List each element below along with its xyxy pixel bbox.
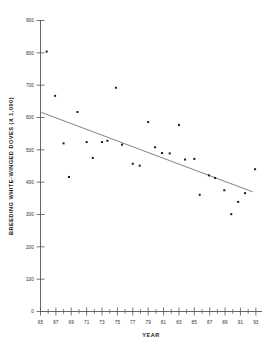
data-point bbox=[208, 174, 210, 176]
x-tick-label: 71 bbox=[84, 320, 90, 325]
x-tick-label: 91 bbox=[238, 320, 244, 325]
data-point bbox=[121, 144, 123, 146]
x-tick-label: 79 bbox=[145, 320, 151, 325]
data-point bbox=[54, 95, 56, 97]
data-point bbox=[193, 158, 195, 160]
x-tick-label: 87 bbox=[207, 320, 213, 325]
y-axis-title: BREEDING WHITE-WINGED DOVES (X 1,000) bbox=[8, 97, 14, 235]
x-tick-label: 65 bbox=[38, 320, 44, 325]
x-axis-title: YEAR bbox=[142, 332, 160, 338]
axes-group bbox=[41, 20, 263, 312]
data-points-group bbox=[46, 51, 256, 216]
trend-line-group bbox=[41, 112, 253, 192]
y-tick-label: 100 bbox=[26, 277, 34, 282]
trend-line bbox=[41, 112, 253, 192]
data-point bbox=[154, 146, 156, 148]
data-point bbox=[244, 192, 246, 194]
chart-figure: 0100200300400500600700800900 65676971737… bbox=[0, 0, 278, 358]
data-point bbox=[199, 194, 201, 196]
y-tick-label: 400 bbox=[26, 180, 34, 185]
data-point bbox=[147, 121, 149, 123]
data-point bbox=[115, 87, 117, 89]
data-point bbox=[178, 124, 180, 126]
data-point bbox=[132, 163, 134, 165]
data-point bbox=[184, 159, 186, 161]
x-tick-label: 69 bbox=[69, 320, 75, 325]
y-tick-label: 500 bbox=[26, 148, 34, 153]
data-point bbox=[76, 111, 78, 113]
x-tick-label: 75 bbox=[115, 320, 121, 325]
data-point bbox=[86, 141, 88, 143]
x-tick-label: 67 bbox=[53, 320, 59, 325]
data-point bbox=[169, 152, 171, 154]
data-point bbox=[106, 140, 108, 142]
y-tick-label: 900 bbox=[26, 18, 34, 23]
y-tick-label: 300 bbox=[26, 212, 34, 217]
data-point bbox=[237, 201, 239, 203]
x-tick-label: 77 bbox=[130, 320, 136, 325]
x-axis-tick-labels: 656769717375777981838587899193 bbox=[38, 320, 259, 325]
data-point bbox=[214, 177, 216, 179]
x-tick-label: 85 bbox=[192, 320, 198, 325]
y-tick-label: 200 bbox=[26, 245, 34, 250]
x-tick-label: 81 bbox=[161, 320, 167, 325]
data-point bbox=[161, 152, 163, 154]
y-tick-label: 800 bbox=[26, 51, 34, 56]
data-point bbox=[92, 157, 94, 159]
data-point bbox=[230, 213, 232, 215]
x-tick-label: 89 bbox=[222, 320, 228, 325]
data-point bbox=[139, 165, 141, 167]
y-tick-label: 0 bbox=[31, 309, 34, 314]
x-tick-label: 73 bbox=[99, 320, 105, 325]
data-point bbox=[254, 168, 256, 170]
scatter-plot: 0100200300400500600700800900 65676971737… bbox=[0, 0, 278, 358]
y-axis-tick-labels: 0100200300400500600700800900 bbox=[26, 18, 34, 314]
y-tick-label: 600 bbox=[26, 115, 34, 120]
data-point bbox=[101, 141, 103, 143]
y-tick-label: 700 bbox=[26, 83, 34, 88]
x-tick-label: 83 bbox=[176, 320, 182, 325]
data-point bbox=[68, 176, 70, 178]
x-tick-label: 93 bbox=[253, 320, 259, 325]
data-point bbox=[63, 142, 65, 144]
data-point bbox=[223, 189, 225, 191]
data-point bbox=[46, 51, 48, 53]
